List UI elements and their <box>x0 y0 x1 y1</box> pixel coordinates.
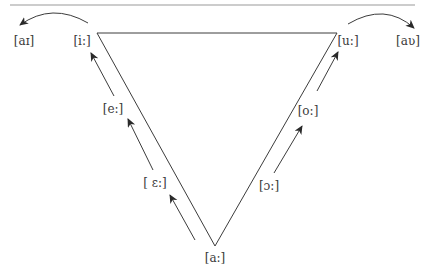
label-a-long: [a:] <box>205 251 226 265</box>
label-open-o-long: [ɔ:] <box>259 179 279 193</box>
label-ai: [aɪ] <box>14 34 34 48</box>
label-o-long: [o:] <box>298 104 319 118</box>
arrow-i-to-ai-icon <box>20 13 88 25</box>
label-e-long: [e:] <box>103 102 124 116</box>
vowel-triangle <box>97 33 337 246</box>
arrow-o-to-u-icon <box>317 52 338 91</box>
label-u-long: [u:] <box>337 34 358 48</box>
label-au: [aʋ] <box>396 34 420 48</box>
label-open-e-long: [ ɛ:] <box>143 176 166 190</box>
label-i-long: [i:] <box>73 34 90 48</box>
arrow-e-to-i-icon <box>91 53 114 96</box>
arrow-u-to-au-icon <box>348 14 414 28</box>
arrow-open-o-to-o-icon <box>274 126 302 173</box>
vowel-shift-diagram <box>0 0 433 271</box>
arrow-a-to-open-e-icon <box>170 195 195 240</box>
